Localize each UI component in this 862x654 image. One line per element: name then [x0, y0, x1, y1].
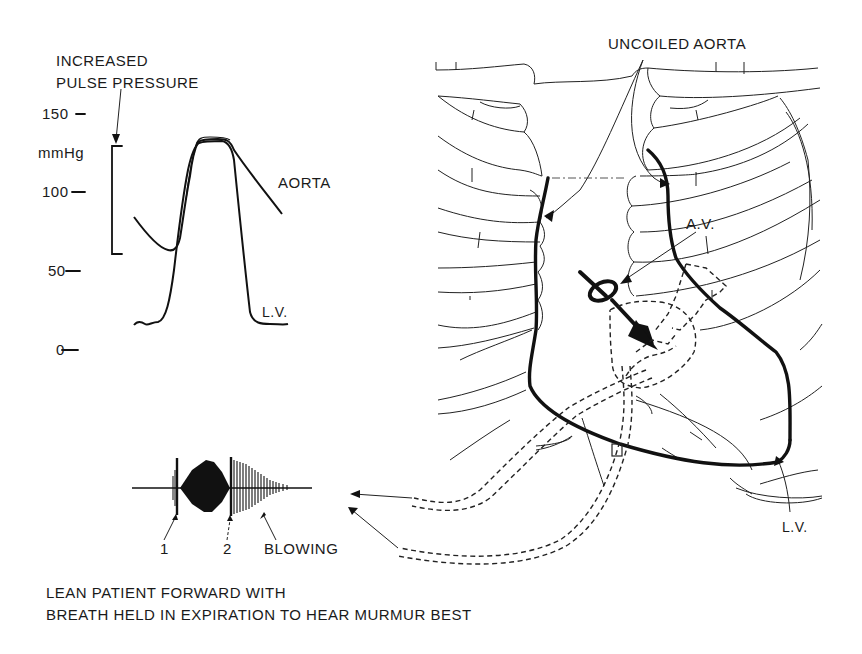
y-tick-label-100: 100	[42, 184, 69, 199]
phonocardiogram	[132, 457, 312, 540]
y-tick-label-50: 50	[48, 263, 66, 278]
pulse-pressure-annotation-line1: INCREASED	[56, 53, 148, 68]
instruction-line2: BREATH HELD IN EXPIRATION TO HEAR MURMUR…	[46, 607, 472, 622]
systolic-murmur	[180, 460, 230, 512]
aorta-trace	[134, 139, 282, 250]
aortic-valve-label: A.V.	[686, 216, 715, 231]
lv-pointer	[774, 456, 790, 512]
uncoiled-aorta-label: UNCOILED AORTA	[608, 36, 746, 51]
lv-trace	[134, 141, 288, 325]
pulse-pressure-annotation-line2: PULSE PRESSURE	[56, 75, 199, 90]
diagram-canvas	[0, 0, 862, 654]
s2-label: 2	[223, 541, 232, 556]
left-ventricle-label: L.V.	[782, 520, 808, 534]
diastolic-murmur	[234, 460, 287, 514]
aorta-series-label: AORTA	[278, 175, 331, 190]
arrowhead-icon	[112, 134, 120, 144]
s1-label: 1	[160, 541, 169, 556]
blowing-murmur-label: BLOWING	[264, 541, 338, 556]
y-tick-label-150: 150	[42, 106, 69, 121]
pulse-pressure-bracket	[112, 146, 122, 254]
pressure-chart	[62, 89, 288, 350]
heart-outline	[529, 150, 790, 465]
lv-series-label: L.V.	[262, 305, 288, 319]
aorta-plateau	[186, 137, 230, 200]
aortic-valve	[580, 232, 696, 350]
y-axis-unit: mmHg	[38, 145, 84, 160]
stethoscope-pointers	[348, 490, 412, 548]
pulse-pressure-arrow	[116, 89, 121, 140]
y-tick-label-0: 0	[56, 342, 65, 357]
instruction-line1: LEAN PATIENT FORWARD WITH	[46, 585, 286, 600]
